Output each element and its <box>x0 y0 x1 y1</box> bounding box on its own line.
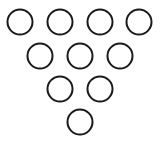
circle-row4-1 <box>68 110 93 135</box>
circle-triangle-diagram <box>0 0 160 142</box>
circle-row1-3 <box>88 10 113 35</box>
circle-row3-1 <box>48 77 73 102</box>
circle-row1-4 <box>127 10 152 35</box>
circle-row3-2 <box>88 77 113 102</box>
circle-row1-2 <box>48 10 73 35</box>
circle-row1-1 <box>8 10 33 35</box>
circle-row2-3 <box>108 44 133 69</box>
circle-row2-1 <box>28 44 53 69</box>
diagram-canvas <box>0 0 160 142</box>
circle-row2-2 <box>68 44 93 69</box>
